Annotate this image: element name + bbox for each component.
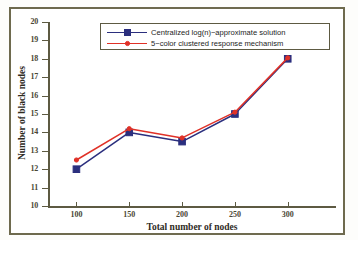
x-axis-title: Total number of nodes	[48, 222, 336, 232]
x-tick-300	[288, 202, 289, 207]
x-tick-label-250: 250	[217, 210, 253, 219]
y-tick-17	[42, 77, 48, 78]
y-tick-label-20: 20	[16, 17, 38, 26]
legend-entry-five-color: 5−color clustered response mechanism	[105, 38, 325, 49]
y-tick-10	[42, 206, 48, 207]
x-tick-label-150: 150	[111, 210, 147, 219]
x-tick-100	[76, 202, 77, 207]
x-tick-label-300: 300	[270, 210, 306, 219]
y-tick-14	[42, 132, 48, 133]
caption-strip	[0, 240, 358, 258]
y-tick-11	[42, 188, 48, 189]
y-tick-label-10: 10	[16, 201, 38, 210]
y-tick-15	[42, 114, 48, 115]
figure-container: 1011121314151617181920 100150200250300 N…	[0, 0, 358, 258]
y-tick-12	[42, 169, 48, 170]
y-tick-16	[42, 96, 48, 97]
x-tick-label-100: 100	[58, 210, 94, 219]
legend-label-five-color: 5−color clustered response mechanism	[151, 39, 283, 48]
x-tick-200	[182, 202, 183, 207]
y-axis-title: Number of black nodes	[17, 38, 27, 188]
y-axis-line	[48, 22, 50, 208]
chart-legend: Centralized log(n)−approximate solution …	[100, 23, 330, 50]
x-tick-250	[235, 202, 236, 207]
y-tick-20	[42, 22, 48, 23]
legend-label-centralized: Centralized log(n)−approximate solution	[151, 28, 285, 37]
y-tick-18	[42, 59, 48, 60]
legend-swatch-red	[107, 39, 147, 49]
legend-swatch-blue	[107, 27, 147, 37]
legend-entry-centralized: Centralized log(n)−approximate solution	[105, 27, 325, 38]
y-tick-19	[42, 40, 48, 41]
x-tick-150	[129, 202, 130, 207]
x-tick-label-200: 200	[164, 210, 200, 219]
x-axis-line	[48, 206, 336, 208]
y-tick-13	[42, 151, 48, 152]
